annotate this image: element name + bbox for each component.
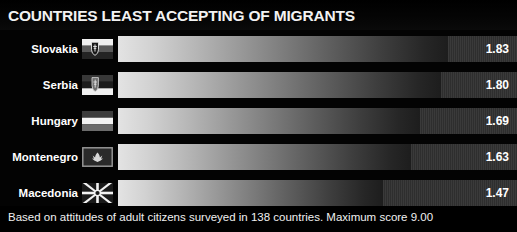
bar-track-slovakia: 1.83 [118, 36, 517, 62]
row-label-slot: Montenegro [0, 144, 78, 170]
bar-fill-serbia [118, 72, 441, 98]
country-label-macedonia: Macedonia [0, 180, 78, 206]
footer-bar: Based on attitudes of adult citizens sur… [0, 206, 517, 232]
flag-slovakia-icon [82, 39, 113, 59]
bar-track-serbia: 1.80 [118, 72, 517, 98]
chart-row-montenegro: Montenegro 1.63 [0, 144, 517, 170]
bar-value-montenegro: 1.63 [486, 144, 509, 170]
row-label-slot: Macedonia [0, 180, 78, 206]
chart-row-slovakia: Slovakia 1.83 [0, 36, 517, 62]
flag-macedonia-icon [82, 183, 113, 203]
bar-value-slovakia: 1.83 [486, 36, 509, 62]
country-label-hungary: Hungary [0, 108, 78, 134]
chart-row-hungary: Hungary 1.69 [0, 108, 517, 134]
country-label-serbia: Serbia [0, 72, 78, 98]
country-label-montenegro: Montenegro [0, 144, 78, 170]
row-label-slot: Hungary [0, 108, 78, 134]
bar-chart: Slovakia 1.83 [0, 30, 517, 206]
flag-montenegro-icon [82, 147, 113, 167]
bar-fill-montenegro [118, 144, 411, 170]
bar-track-montenegro: 1.63 [118, 144, 517, 170]
row-label-slot: Slovakia [0, 36, 78, 62]
bar-track-hungary: 1.69 [118, 108, 517, 134]
bar-value-macedonia: 1.47 [486, 180, 509, 206]
row-label-slot: Serbia [0, 72, 78, 98]
chart-row-macedonia: Macedonia [0, 180, 517, 206]
bar-fill-hungary [118, 108, 420, 134]
flag-serbia-icon [82, 75, 113, 95]
country-label-slovakia: Slovakia [0, 36, 78, 62]
bar-track-macedonia: 1.47 [118, 180, 517, 206]
infographic-panel: COUNTRIES LEAST ACCEPTING OF MIGRANTS Sl… [0, 0, 517, 232]
bar-value-hungary: 1.69 [486, 108, 509, 134]
bar-fill-slovakia [118, 36, 448, 62]
bar-fill-macedonia [118, 180, 383, 206]
flag-hungary-icon [82, 111, 113, 131]
title-bar: COUNTRIES LEAST ACCEPTING OF MIGRANTS [0, 0, 517, 30]
page-title: COUNTRIES LEAST ACCEPTING OF MIGRANTS [8, 7, 355, 25]
bar-value-serbia: 1.80 [486, 72, 509, 98]
footnote: Based on attitudes of adult citizens sur… [8, 211, 433, 223]
chart-row-serbia: Serbia 1.80 [0, 72, 517, 98]
